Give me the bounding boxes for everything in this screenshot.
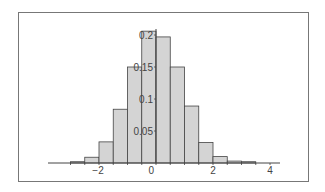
y-tick-label: 0.1 <box>139 94 153 105</box>
x-axis-ticks: −2024 <box>71 163 274 176</box>
histogram-bar <box>170 67 184 163</box>
x-tick-label: 2 <box>210 165 216 176</box>
histogram-bar <box>85 157 99 163</box>
histogram-chart: −2024 0.050.10.150.2 <box>0 0 325 192</box>
y-tick-label: 0.05 <box>134 126 154 137</box>
histogram-bar <box>185 106 199 163</box>
histogram-bars <box>71 31 256 163</box>
y-tick-label: 0.2 <box>139 30 153 41</box>
histogram-bar <box>99 142 113 163</box>
x-tick-label: 0 <box>148 165 154 176</box>
x-tick-label: 4 <box>267 165 273 176</box>
y-tick-label: 0.15 <box>134 62 154 73</box>
x-tick-label: −2 <box>92 165 104 176</box>
histogram-bar <box>113 109 127 163</box>
histogram-bar <box>156 37 170 163</box>
histogram-bar <box>128 67 142 163</box>
histogram-bar <box>199 143 213 163</box>
histogram-bar <box>213 157 227 163</box>
